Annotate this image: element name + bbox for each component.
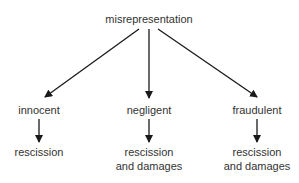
- node-innocent: innocent: [18, 103, 60, 117]
- remedy-fraudulent: rescission and damages: [224, 145, 291, 173]
- node-negligent: negligent: [127, 103, 172, 117]
- remedy-line: rescission: [116, 145, 183, 159]
- remedy-line: rescission: [15, 145, 64, 159]
- remedy-line: and damages: [116, 159, 183, 173]
- remedy-line: and damages: [224, 159, 291, 173]
- remedy-negligent: rescission and damages: [116, 145, 183, 173]
- remedy-line: rescission: [224, 145, 291, 159]
- root-node: misrepresentation: [105, 12, 192, 26]
- node-fraudulent: fraudulent: [233, 103, 282, 117]
- arrow-to-fraudulent: [158, 29, 257, 97]
- remedy-innocent: rescission: [15, 145, 64, 159]
- arrow-to-innocent: [45, 29, 139, 97]
